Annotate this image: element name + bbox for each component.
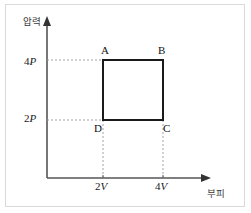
- x-tick-4v-symbol: V: [161, 180, 168, 192]
- pv-diagram-figure: 압력 부피 4P 2P 2V 4V A B C D: [0, 0, 251, 213]
- pv-diagram-canvas: [0, 0, 251, 213]
- y-tick-label-4p: 4P: [24, 55, 36, 67]
- x-tick-2v-symbol: V: [101, 180, 108, 192]
- y-axis-arrowhead: [43, 16, 51, 26]
- x-axis-title: 부피: [207, 186, 224, 200]
- point-label-a: A: [101, 44, 109, 56]
- point-label-b: B: [158, 44, 165, 56]
- y-tick-label-2p: 2P: [24, 112, 36, 124]
- point-label-d: D: [94, 122, 102, 134]
- x-axis-arrowhead: [201, 174, 211, 182]
- cycle-rectangle: [103, 60, 163, 120]
- point-label-c: C: [163, 122, 170, 134]
- y-axis-title: 압력: [23, 14, 40, 28]
- x-tick-label-2v: 2V: [95, 180, 107, 192]
- y-tick-4p-symbol: P: [30, 55, 37, 67]
- x-tick-label-4v: 4V: [155, 180, 167, 192]
- y-tick-2p-symbol: P: [30, 112, 37, 124]
